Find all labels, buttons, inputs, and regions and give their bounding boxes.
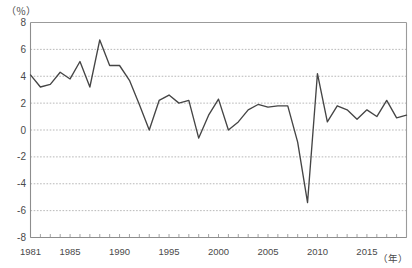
growth-rate-chart: （％） 86420-2-4-6-8 1981198519901995200020… [0,0,412,268]
y-tick-label-6: 6 [20,44,26,55]
y-tick-label-2: 2 [20,98,26,109]
x-tick-label-2005: 2005 [257,246,278,257]
x-axis-tick-labels: 19811985199019952000200520102015 [20,246,378,257]
y-tick-label-0: 0 [20,125,26,136]
x-tick-label-1990: 1990 [109,246,130,257]
y-tick-label-8: 8 [20,17,26,28]
chart-plot-area: 86420-2-4-6-8 19811985199019952000200520… [0,0,412,268]
x-tick-label-2010: 2010 [307,246,328,257]
x-axis-unit-label: （年） [378,251,408,265]
y-tick-label--6: -6 [17,205,26,216]
y-tick-label-4: 4 [20,71,26,82]
gridlines-group [31,49,407,210]
x-tick-label-2000: 2000 [208,246,229,257]
x-tick-label-1985: 1985 [60,246,81,257]
x-tick-label-1995: 1995 [158,246,179,257]
y-tick-label--8: -8 [17,232,26,243]
y-axis-tick-labels: 86420-2-4-6-8 [17,17,26,243]
growth-rate-line-series [31,40,407,203]
x-tick-label-1981: 1981 [20,246,41,257]
x-tick-label-2015: 2015 [356,246,377,257]
y-tick-label--2: -2 [17,151,26,162]
y-tick-label--4: -4 [17,178,26,189]
